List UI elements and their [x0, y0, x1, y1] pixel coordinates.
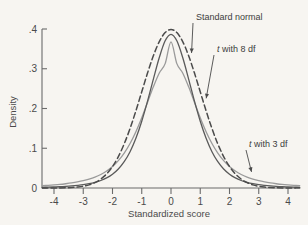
annotation-label-t-8-df: t with 8 df	[217, 44, 256, 54]
x-tick-label: 2	[227, 196, 233, 207]
annotation-label-standard-normal: Standard normal	[196, 12, 263, 22]
x-tick-label: 4	[285, 196, 291, 207]
y-tick-label: .2	[29, 103, 38, 114]
x-tick-label: -1	[137, 196, 146, 207]
x-tick-label: 0	[168, 196, 174, 207]
chart-canvas: 0.1.2.3.4 -4-3-2-101234 Standard normalt…	[0, 0, 308, 225]
y-tick-label: 0	[31, 183, 37, 194]
x-tick-label: -4	[50, 196, 59, 207]
annotation-text: with 3 df	[252, 139, 289, 149]
y-tick-label: .3	[29, 63, 38, 74]
x-axis-title: Standardized score	[128, 208, 210, 219]
annotation-label-t-3-df: t with 3 df	[249, 139, 288, 149]
chart-background	[0, 0, 308, 225]
y-tick-label: .4	[29, 24, 38, 35]
x-tick-label: -3	[79, 196, 88, 207]
y-tick-label: .1	[29, 143, 38, 154]
annotation-text: with 8 df	[220, 44, 257, 54]
density-comparison-chart: 0.1.2.3.4 -4-3-2-101234 Standard normalt…	[0, 0, 308, 225]
y-axis-title: Density	[7, 96, 18, 128]
x-tick-label: 3	[256, 196, 262, 207]
x-tick-label: -2	[108, 196, 117, 207]
x-tick-label: 1	[197, 196, 203, 207]
